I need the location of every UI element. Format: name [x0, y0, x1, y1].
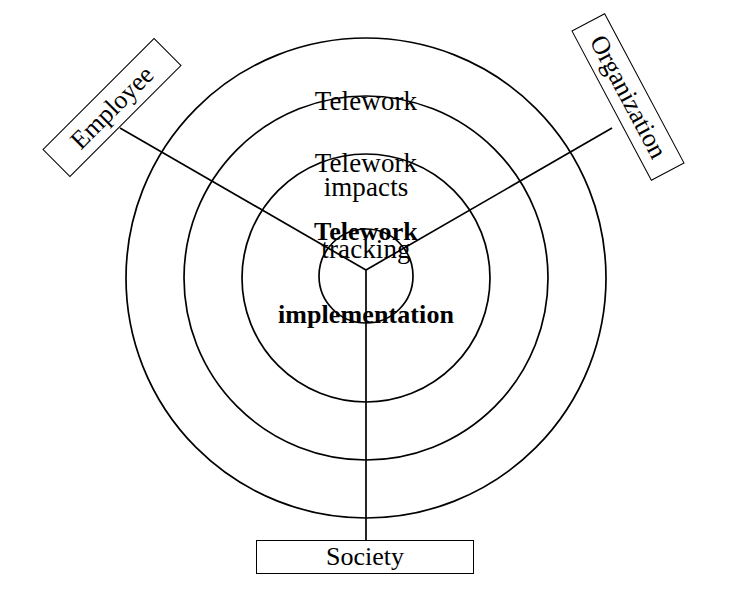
ring-label-telework-implementation: Telework implementation	[0, 163, 732, 383]
ring-label-implementation-line1: Telework	[0, 218, 732, 246]
node-label-society: Society	[326, 542, 404, 572]
ring-label-implementation-line2: implementation	[0, 301, 732, 329]
node-box-society: Society	[256, 540, 474, 574]
telework-concentric-diagram: Telework impacts Telework tracking Telew…	[0, 0, 732, 601]
